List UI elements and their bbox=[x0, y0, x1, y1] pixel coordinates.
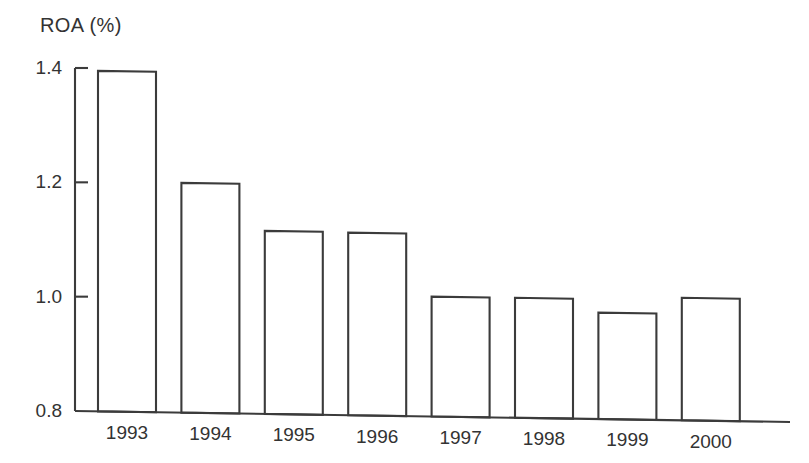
chart-figure: ROA (%) 0.81.01.21.4 1993199419951996199… bbox=[0, 0, 809, 463]
y-tick-label: 1.0 bbox=[36, 286, 62, 308]
chart-plot-area bbox=[0, 0, 809, 463]
y-tick-label: 0.8 bbox=[36, 400, 62, 422]
bars-group bbox=[98, 71, 740, 421]
bar-2000 bbox=[682, 298, 740, 421]
bar-1999 bbox=[598, 313, 656, 420]
x-tick-label-1994: 1994 bbox=[189, 423, 231, 445]
bar-1997 bbox=[432, 297, 490, 418]
y-tick-label: 1.4 bbox=[36, 57, 62, 79]
x-tick-label-1996: 1996 bbox=[356, 426, 398, 448]
x-tick-label-1995: 1995 bbox=[273, 424, 315, 446]
x-tick-label-2000: 2000 bbox=[690, 431, 732, 453]
bar-1994 bbox=[181, 183, 239, 414]
y-tick-label: 1.2 bbox=[36, 171, 62, 193]
x-tick-label-1998: 1998 bbox=[523, 428, 565, 450]
bar-1995 bbox=[265, 231, 323, 415]
bar-1998 bbox=[515, 298, 573, 419]
bar-1996 bbox=[348, 233, 406, 416]
x-tick-label-1999: 1999 bbox=[606, 429, 648, 451]
x-tick-label-1997: 1997 bbox=[439, 427, 481, 449]
bar-1993 bbox=[98, 71, 156, 412]
x-tick-label-1993: 1993 bbox=[106, 422, 148, 444]
